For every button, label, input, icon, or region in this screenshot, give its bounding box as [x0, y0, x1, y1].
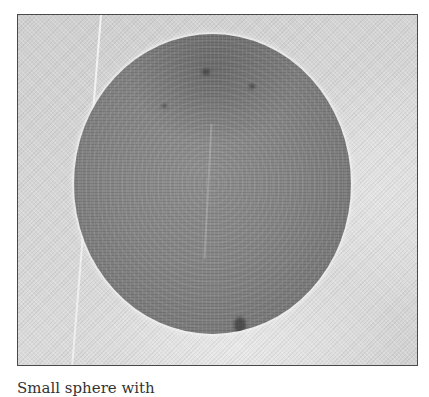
- knitted-sphere: [74, 34, 351, 334]
- dark-spot: [249, 84, 255, 89]
- dark-spot: [162, 104, 167, 108]
- sphere-knit-texture: [74, 34, 351, 334]
- figure-caption: Small sphere with: [17, 379, 155, 397]
- dark-spot: [202, 69, 210, 75]
- photo-frame: [17, 14, 418, 366]
- dark-spot: [234, 317, 246, 333]
